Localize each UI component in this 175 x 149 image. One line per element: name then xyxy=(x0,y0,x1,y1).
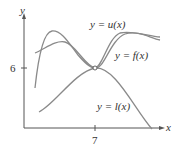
x-axis-label: x xyxy=(165,121,171,133)
diagram-canvas: y x 6 7 y = u(x) y = f(x) y = l(x) xyxy=(0,0,175,149)
label-u: y = u(x) xyxy=(89,18,126,31)
squeeze-theorem-diagram: y x 6 7 y = u(x) y = f(x) y = l(x) xyxy=(0,0,175,149)
y-tick-label: 6 xyxy=(10,62,16,74)
label-f: y = f(x) xyxy=(114,49,148,62)
x-tick-label: 7 xyxy=(92,134,98,146)
y-axis-label: y xyxy=(19,4,25,16)
x-axis-arrow-icon xyxy=(159,126,165,130)
label-l: y = l(x) xyxy=(96,100,130,113)
squeeze-point xyxy=(93,66,97,70)
curve-l xyxy=(39,68,152,129)
